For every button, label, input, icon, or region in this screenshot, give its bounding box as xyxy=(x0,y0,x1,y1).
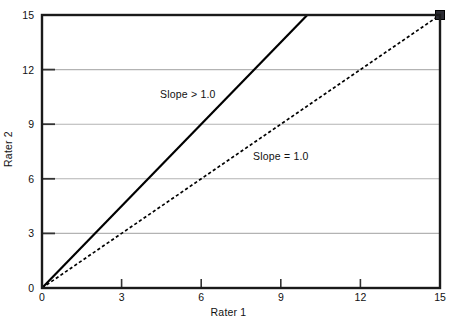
annotation-slope-equal-1: Slope = 1.0 xyxy=(253,150,309,162)
y-tick-label-15: 15 xyxy=(8,9,34,21)
y-axis-title: Rater 2 xyxy=(2,119,14,179)
x-tick-label-15: 15 xyxy=(425,291,455,303)
chart-figure: 15 12 9 6 3 0 0 3 6 9 12 15 Rater 1 Rate… xyxy=(0,0,457,326)
x-tick-label-6: 6 xyxy=(186,291,216,303)
annotation-slope-greater-than-1: Slope > 1.0 xyxy=(160,88,216,100)
y-tick-label-12: 12 xyxy=(8,64,34,76)
x-tick-label-12: 12 xyxy=(345,291,375,303)
y-tick-label-3: 3 xyxy=(8,227,34,239)
x-tick-label-0: 0 xyxy=(27,291,57,303)
chart-plot-area xyxy=(0,0,457,326)
x-tick-label-3: 3 xyxy=(107,291,137,303)
x-tick-label-9: 9 xyxy=(266,291,296,303)
x-axis-title: Rater 1 xyxy=(0,306,457,318)
